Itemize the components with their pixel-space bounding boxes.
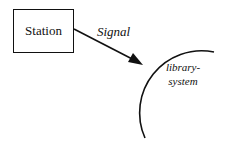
arrowhead-icon [128,53,143,65]
station-label: Station [25,23,62,39]
signal-label: Signal [97,24,130,40]
system-label-line1: library- [158,60,208,74]
system-label-line2: system [158,74,208,88]
library-system-label: library- system [158,60,208,88]
station-node: Station [13,9,74,53]
